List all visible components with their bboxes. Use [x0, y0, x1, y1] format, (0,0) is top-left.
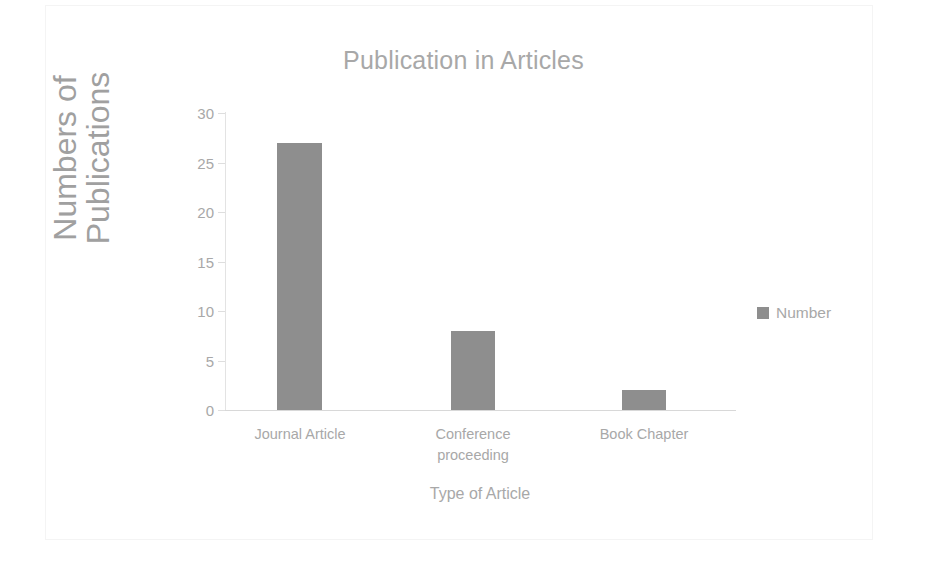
x-axis-category-labels: Journal Article Conference proceeding Bo…: [225, 424, 735, 484]
x-label-conference-proceeding: Conference proceeding: [398, 424, 548, 466]
x-label-book-chapter-line-1: Book Chapter: [569, 424, 719, 445]
y-tick-label-5: 5: [174, 352, 214, 369]
x-label-journal-article-line-1: Journal Article: [225, 424, 375, 445]
y-tick-mark-5: [218, 361, 225, 362]
y-tick-label-10: 10: [174, 303, 214, 320]
x-axis-title: Type of Article: [225, 485, 735, 503]
y-axis-title-line-1: Numbers of: [49, 75, 82, 240]
y-tick-label-25: 25: [174, 154, 214, 171]
y-tick-mark-0: [218, 410, 225, 411]
chart-title: Publication in Articles: [0, 46, 927, 75]
y-tick-label-20: 20: [174, 204, 214, 221]
x-axis-line: [225, 410, 736, 411]
y-tick-mark-15: [218, 262, 225, 263]
plot-area: [225, 113, 735, 410]
x-label-journal-article: Journal Article: [225, 424, 375, 445]
y-tick-label-30: 30: [174, 105, 214, 122]
y-tick-mark-20: [218, 212, 225, 213]
y-axis-title-line-2: Publications: [82, 72, 115, 245]
chart-legend: Number: [757, 304, 831, 322]
x-label-conference-proceeding-line-2: proceeding: [398, 445, 548, 466]
y-tick-mark-10: [218, 311, 225, 312]
bar-conference-proceeding[interactable]: [451, 331, 495, 410]
x-label-conference-proceeding-line-1: Conference: [398, 424, 548, 445]
y-tick-label-15: 15: [174, 253, 214, 270]
y-axis-title: Numbers of Publications: [52, 8, 112, 308]
bar-book-chapter[interactable]: [622, 390, 666, 410]
y-tick-mark-25: [218, 163, 225, 164]
legend-label-number: Number: [776, 304, 831, 322]
y-tick-label-0: 0: [174, 402, 214, 419]
legend-square-marker-icon: [757, 307, 769, 319]
y-tick-mark-30: [218, 113, 225, 114]
x-label-book-chapter: Book Chapter: [569, 424, 719, 445]
bar-journal-article[interactable]: [277, 143, 322, 410]
y-axis-tick-labels: 30 25 20 15 10 5 0: [170, 0, 214, 572]
